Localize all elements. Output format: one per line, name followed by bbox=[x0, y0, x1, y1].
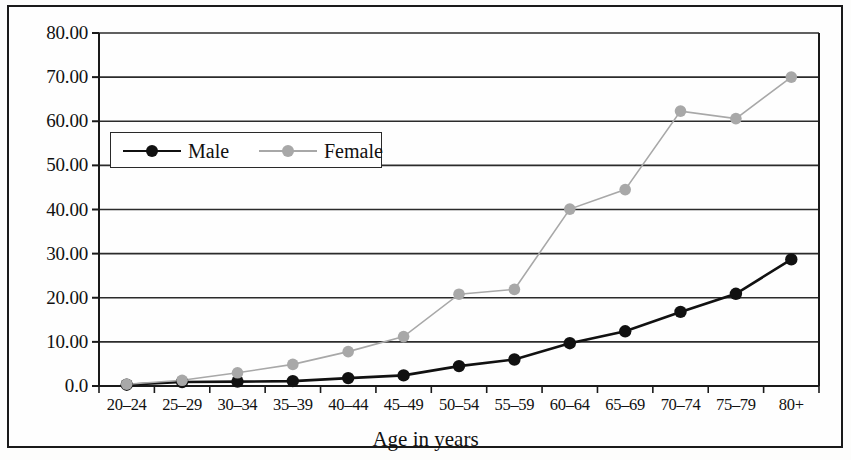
data-point-male bbox=[674, 306, 686, 318]
y-tick-label: 60.00 bbox=[14, 111, 88, 130]
data-point-male bbox=[397, 369, 409, 381]
x-tick-label: 20–24 bbox=[99, 396, 154, 413]
data-point-female bbox=[121, 378, 133, 390]
y-tick-label: 80.00 bbox=[14, 23, 88, 42]
data-point-female bbox=[232, 367, 244, 379]
chart-figure: 0.010.0020.0030.0040.0050.0060.0070.0080… bbox=[0, 0, 851, 460]
plot-area bbox=[0, 0, 851, 460]
y-tick-label: 50.00 bbox=[14, 155, 88, 174]
data-point-female bbox=[342, 346, 354, 358]
x-tick-label: 50–54 bbox=[431, 396, 486, 413]
x-tick-label: 35–39 bbox=[265, 396, 320, 413]
x-tick-label: 55–59 bbox=[487, 396, 542, 413]
y-tick-label: 40.00 bbox=[14, 200, 88, 219]
x-tick-label: 65–69 bbox=[597, 396, 652, 413]
data-point-female bbox=[786, 71, 798, 83]
data-point-male bbox=[287, 375, 299, 387]
legend-marker-female bbox=[282, 145, 294, 157]
data-series-layer bbox=[121, 71, 798, 391]
data-point-male bbox=[508, 353, 520, 365]
x-tick-label: 70–74 bbox=[653, 396, 708, 413]
data-point-female bbox=[675, 105, 687, 117]
legend-marker-male bbox=[146, 145, 158, 157]
data-point-female bbox=[287, 359, 299, 371]
chart-legend: Male Female bbox=[110, 132, 382, 168]
legend-label-female: Female bbox=[324, 140, 383, 163]
data-point-male bbox=[619, 325, 631, 337]
y-axis-ticks bbox=[92, 33, 99, 386]
data-point-male bbox=[785, 253, 797, 265]
legend-swatch-male bbox=[123, 145, 181, 157]
y-tick-label: 70.00 bbox=[14, 67, 88, 86]
data-point-female bbox=[453, 288, 465, 300]
data-point-male bbox=[453, 360, 465, 372]
data-point-female bbox=[398, 331, 410, 343]
data-point-male bbox=[730, 288, 742, 300]
data-point-male bbox=[564, 337, 576, 349]
x-tick-label: 25–29 bbox=[154, 396, 209, 413]
x-axis-title: Age in years bbox=[0, 427, 851, 452]
data-point-male bbox=[342, 372, 354, 384]
x-axis-ticks bbox=[99, 386, 819, 393]
legend-label-male: Male bbox=[188, 140, 229, 163]
x-tick-label: 30–34 bbox=[210, 396, 265, 413]
y-tick-label: 20.00 bbox=[14, 288, 88, 307]
x-tick-label: 40–44 bbox=[321, 396, 376, 413]
x-tick-label: 80+ bbox=[764, 396, 819, 413]
legend-entry-male: Male bbox=[123, 133, 229, 169]
legend-entry-female: Female bbox=[259, 133, 383, 169]
data-point-female bbox=[619, 184, 631, 196]
data-point-female bbox=[730, 113, 742, 125]
data-point-female bbox=[176, 375, 188, 387]
legend-swatch-female bbox=[259, 145, 317, 157]
y-tick-label: 10.00 bbox=[14, 332, 88, 351]
y-tick-label: 0.0 bbox=[14, 376, 88, 395]
data-point-female bbox=[509, 284, 521, 296]
data-point-female bbox=[564, 203, 576, 215]
x-tick-label: 75–79 bbox=[708, 396, 763, 413]
x-tick-label: 60–64 bbox=[542, 396, 597, 413]
series-line-female bbox=[127, 77, 792, 384]
y-tick-label: 30.00 bbox=[14, 244, 88, 263]
x-tick-label: 45–49 bbox=[376, 396, 431, 413]
